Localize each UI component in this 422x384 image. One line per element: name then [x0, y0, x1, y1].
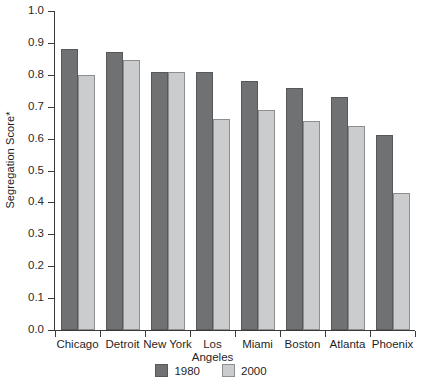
- bar-chicago-1980: [61, 49, 78, 330]
- x-tick-mark: [280, 331, 281, 337]
- x-tick-mark: [415, 331, 416, 337]
- y-tick-mark: [48, 75, 54, 76]
- bar-phoenix-1980: [376, 135, 393, 330]
- y-tick-label-wrap: 0.2: [0, 260, 44, 271]
- y-tick-mark: [48, 330, 54, 331]
- bar-los-angeles-2000: [213, 119, 230, 330]
- y-tick-label: 0.7: [0, 101, 44, 112]
- y-tick-label-wrap: 0.9: [0, 37, 44, 48]
- bar-boston-2000: [303, 121, 320, 330]
- y-tick-label-wrap: 0.5: [0, 165, 44, 176]
- bar-miami-2000: [258, 110, 275, 330]
- y-tick-label: 0.2: [0, 260, 44, 271]
- bar-chicago-2000: [78, 75, 95, 330]
- y-tick-label-wrap: 0.7: [0, 101, 44, 112]
- chart-legend: 1980 2000: [0, 364, 422, 377]
- bar-detroit-1980: [106, 52, 123, 330]
- y-tick-mark: [48, 11, 54, 12]
- y-tick-label: 0.4: [0, 196, 44, 207]
- y-tick-label: 0.1: [0, 292, 44, 303]
- y-tick-mark: [48, 266, 54, 267]
- bar-new-york-2000: [168, 72, 185, 330]
- bar-new-york-1980: [151, 72, 168, 330]
- y-tick-label: 0.8: [0, 69, 44, 80]
- y-tick-mark: [48, 171, 54, 172]
- bar-boston-1980: [286, 88, 303, 330]
- y-tick-label-wrap: 0.1: [0, 292, 44, 303]
- y-tick-mark: [48, 202, 54, 203]
- y-tick-label: 0.9: [0, 37, 44, 48]
- x-tick-mark: [145, 331, 146, 337]
- y-axis-line: [54, 11, 55, 331]
- bar-atlanta-2000: [348, 126, 365, 330]
- bar-miami-1980: [241, 81, 258, 330]
- legend-item-2000: 2000: [222, 364, 267, 377]
- light-gray-swatch-icon: [222, 364, 235, 377]
- y-tick-label-wrap: 0.3: [0, 228, 44, 239]
- bar-phoenix-2000: [393, 193, 410, 330]
- bar-atlanta-1980: [331, 97, 348, 330]
- y-tick-label: 0.6: [0, 133, 44, 144]
- x-tick-mark: [325, 331, 326, 337]
- x-tick-mark: [190, 331, 191, 337]
- y-axis-title: Segregation Score*: [4, 0, 18, 320]
- y-tick-label-wrap: 0.0: [0, 324, 44, 335]
- x-tick-mark: [100, 331, 101, 337]
- y-tick-label-wrap: 0.8: [0, 69, 44, 80]
- bar-los-angeles-1980: [196, 72, 213, 330]
- x-tick-mark: [55, 331, 56, 337]
- legend-label-2000: 2000: [241, 365, 267, 377]
- y-tick-label: 0.5: [0, 165, 44, 176]
- y-tick-label: 0.3: [0, 228, 44, 239]
- y-tick-mark: [48, 234, 54, 235]
- legend-item-1980: 1980: [155, 364, 200, 377]
- y-tick-mark: [48, 43, 54, 44]
- dark-gray-swatch-icon: [155, 364, 168, 377]
- segregation-score-bar-chart: Segregation Score* 1.00.90.80.70.60.50.4…: [0, 0, 422, 384]
- y-tick-mark: [48, 139, 54, 140]
- y-tick-label-wrap: 0.4: [0, 196, 44, 207]
- y-tick-label: 0.0: [0, 324, 44, 335]
- legend-label-1980: 1980: [174, 365, 200, 377]
- y-tick-label-wrap: 1.0: [0, 5, 44, 16]
- bar-detroit-2000: [123, 60, 140, 330]
- y-tick-label: 1.0: [0, 5, 44, 16]
- x-axis-label-phoenix: Phoenix: [360, 338, 422, 351]
- y-tick-label-wrap: 0.6: [0, 133, 44, 144]
- y-tick-mark: [48, 298, 54, 299]
- x-tick-mark: [235, 331, 236, 337]
- x-tick-mark: [370, 331, 371, 337]
- y-tick-mark: [48, 107, 54, 108]
